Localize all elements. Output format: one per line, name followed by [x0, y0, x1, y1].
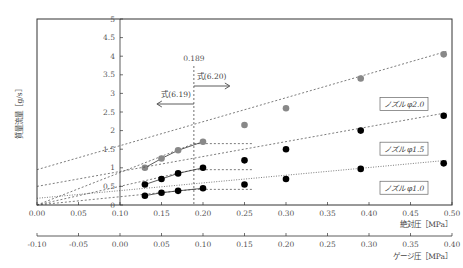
data-point	[440, 160, 447, 167]
x-tick-label: 0.05	[70, 209, 87, 218]
x-tick-label: 0.00	[29, 209, 46, 218]
data-point	[158, 155, 165, 162]
x-tick-label: 0.25	[236, 209, 253, 218]
x2-tick-label: -0.10	[27, 240, 46, 249]
y-axis-label: 質量流量［g/s］	[14, 85, 24, 138]
data-point	[283, 176, 290, 183]
y-tick-label: 1.5	[103, 145, 115, 154]
data-point	[357, 75, 364, 82]
data-point	[357, 166, 364, 173]
y-tick-label: 3	[110, 89, 115, 98]
x2-axis-label: ゲージ圧［MPa］	[393, 252, 452, 261]
x-tick-label: 0.10	[112, 209, 129, 218]
y-tick-label: 2	[110, 126, 115, 135]
x2-tick-label: 0.30	[361, 240, 378, 249]
left-formula-label: 式(6.19)	[161, 89, 191, 99]
x2-tick-label: 0.05	[153, 240, 170, 249]
x-tick-label: 0.20	[195, 209, 212, 218]
critical-pressure-label: 0.189	[183, 54, 205, 63]
data-point	[175, 147, 182, 154]
x2-tick-label: 0.40	[444, 240, 461, 249]
y-tick-label: 2.5	[103, 108, 115, 117]
y-tick-label: 5	[110, 15, 115, 24]
data-point	[357, 127, 364, 134]
x-axis-label: 絶対圧［MPa］	[400, 219, 452, 229]
right-formula-label: 式(6.20)	[197, 71, 227, 81]
data-point	[142, 192, 149, 199]
data-point	[142, 181, 149, 188]
data-point	[142, 165, 149, 172]
x2-tick-label: 0.15	[236, 240, 253, 249]
data-point	[158, 176, 165, 183]
x-tick-label: 0.30	[278, 209, 295, 218]
y-tick-label: 1	[110, 163, 115, 172]
x-tick-label: 0.45	[402, 209, 419, 218]
data-point	[241, 122, 248, 129]
gauge-axis: -0.10-0.050.000.050.100.150.200.250.300.…	[27, 233, 460, 249]
data-point	[241, 181, 248, 188]
y-tick-label: 4.5	[103, 33, 115, 42]
y-tick-label: 4	[110, 52, 115, 61]
data-point	[200, 185, 207, 192]
x-tick-label: 0.35	[319, 209, 336, 218]
x-tick-label: 0.50	[444, 209, 461, 218]
data-point	[200, 138, 207, 145]
data-point	[175, 170, 182, 177]
y-tick-label: 3.5	[103, 70, 115, 79]
data-point	[241, 157, 248, 164]
data-point	[283, 146, 290, 153]
series-labels: ノズル φ2.0ノズル φ1.5ノズル φ1.0	[380, 98, 428, 195]
data-point	[200, 165, 207, 172]
x2-tick-label: 0.25	[319, 240, 336, 249]
x-axis-ticks: 0.000.050.100.150.200.250.300.350.400.45…	[29, 202, 461, 218]
plot-frame	[37, 19, 452, 205]
series-label: ノズル φ2.0	[384, 100, 425, 109]
x2-tick-label: 0.10	[195, 240, 212, 249]
data-point	[283, 105, 290, 112]
x-tick-label: 0.15	[153, 209, 170, 218]
chart: 00.511.522.533.544.55 0.000.050.100.150.…	[0, 0, 463, 268]
series-label: ノズル φ1.0	[384, 184, 425, 193]
annotations: 0.189式(6.20)式(6.19)	[157, 54, 230, 107]
data-point	[158, 189, 165, 196]
x2-tick-label: 0.20	[278, 240, 295, 249]
x2-tick-label: 0.35	[402, 240, 419, 249]
series-label: ノズル φ1.5	[384, 145, 425, 154]
x-tick-label: 0.40	[361, 209, 378, 218]
x2-tick-label: 0.00	[112, 240, 129, 249]
data-point	[175, 188, 182, 195]
data-point	[440, 51, 447, 58]
data-point	[440, 112, 447, 119]
x2-tick-label: -0.05	[69, 240, 88, 249]
